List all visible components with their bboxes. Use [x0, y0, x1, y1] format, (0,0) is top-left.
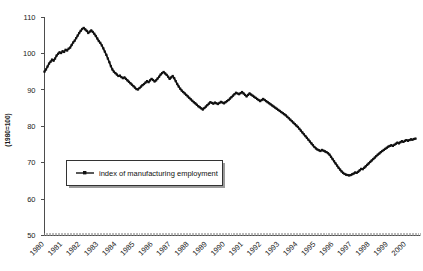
data-point-marker: [334, 162, 336, 164]
data-point-marker: [93, 33, 95, 35]
series-markers: [43, 27, 416, 177]
x-axis-tick-label: 1992: [245, 240, 263, 258]
data-point-marker: [52, 60, 54, 62]
series-line-index-of-manufacturing-employment: [45, 28, 416, 175]
y-axis-tick-label: 50: [27, 231, 35, 240]
x-axis-tick-label: 1986: [136, 240, 154, 258]
x-axis-tick-label: 1991: [227, 240, 245, 258]
legend-entry-label: index of manufacturing employment: [99, 169, 219, 178]
data-point-marker: [336, 164, 338, 166]
x-axis-tick-label: 1996: [317, 240, 335, 258]
data-point-marker: [101, 44, 103, 46]
legend-marker-icon: [83, 171, 86, 174]
data-point-marker: [45, 68, 47, 70]
data-point-marker: [108, 61, 110, 63]
data-point-marker: [95, 35, 97, 37]
data-point-marker: [86, 30, 88, 32]
data-point-marker: [110, 65, 112, 67]
y-axis-title-label: (1980=100): [4, 113, 12, 146]
x-axis-tick-label: 1994: [281, 240, 299, 258]
data-point-marker: [105, 54, 107, 56]
data-point-marker: [331, 158, 333, 160]
data-point-marker: [63, 51, 65, 53]
line-chart: (1980=100) 5060708090100110 198019811982…: [0, 0, 423, 271]
data-point-marker: [74, 40, 76, 42]
x-axis-tick-label: 1981: [46, 240, 64, 258]
x-axis-tick-label: 1997: [335, 240, 353, 258]
x-axis-tick-label: 1999: [372, 240, 390, 258]
chart-container: (1980=100) 5060708090100110 198019811982…: [0, 0, 423, 271]
x-axis-tick-label: 1980: [28, 240, 46, 258]
data-point-marker: [328, 154, 330, 156]
x-axis-tick-label: 1993: [263, 240, 281, 258]
x-axis-tick-label: 1990: [209, 240, 227, 258]
y-axis-tick-labels: 5060708090100110: [23, 13, 36, 241]
y-axis-tick-label: 90: [27, 86, 35, 95]
x-axis-tick-label: 1983: [82, 240, 100, 258]
data-point-marker: [99, 42, 101, 44]
data-point-marker: [176, 83, 178, 85]
data-series-group: [43, 27, 416, 177]
data-point-marker: [172, 75, 174, 77]
data-point-marker: [69, 46, 71, 48]
data-point-marker: [78, 32, 80, 34]
data-point-marker: [333, 160, 335, 162]
data-point-marker: [173, 77, 175, 79]
y-axis-title: (1980=100): [4, 113, 12, 146]
y-axis-tick-label: 110: [24, 13, 36, 22]
data-point-marker: [102, 47, 104, 49]
data-point-marker: [330, 156, 332, 158]
data-point-marker: [175, 80, 177, 82]
data-point-marker: [111, 68, 113, 70]
x-axis-tick-label: 1998: [353, 240, 371, 258]
data-point-marker: [75, 37, 77, 39]
data-point-marker: [104, 51, 106, 53]
y-axis-tick-label: 100: [23, 49, 36, 58]
data-point-marker: [96, 37, 98, 39]
data-point-marker: [167, 76, 169, 78]
y-axis-tick-label: 70: [27, 158, 35, 167]
data-point-marker: [71, 44, 73, 46]
data-point-marker: [49, 61, 51, 63]
y-axis-tick-label: 60: [27, 195, 35, 204]
legend: index of manufacturing employment: [67, 161, 226, 189]
y-axis-tick-marks: [41, 17, 45, 236]
x-axis-tick-label: 2000: [390, 240, 408, 258]
data-point-marker: [43, 71, 45, 73]
x-axis-tick-label: 1987: [154, 240, 172, 258]
data-point-marker: [178, 85, 180, 87]
x-axis-tick-label: 1989: [191, 240, 209, 258]
x-axis-tick-label: 1995: [299, 240, 317, 258]
data-point-marker: [77, 34, 79, 36]
data-point-marker: [46, 65, 48, 67]
x-axis-tick-label: 1984: [100, 240, 118, 258]
x-axis-tick-labels: 1980198119821983198419851986198719881989…: [28, 240, 408, 258]
data-point-marker: [414, 138, 416, 140]
x-axis-tick-label: 1985: [118, 240, 136, 258]
x-axis-tick-label: 1982: [64, 240, 82, 258]
data-point-marker: [158, 76, 160, 78]
data-point-marker: [107, 57, 109, 59]
y-axis-tick-label: 80: [27, 122, 35, 131]
data-point-marker: [54, 57, 56, 59]
x-axis-tick-label: 1988: [173, 240, 191, 258]
